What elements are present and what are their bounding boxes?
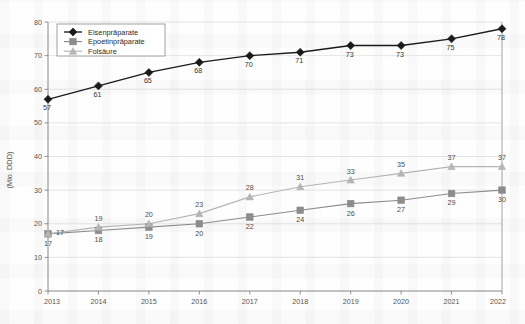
y-tick-label: 10 bbox=[34, 253, 42, 262]
diamond-marker bbox=[347, 42, 355, 50]
y-axis-ticks: 01020304050607080 bbox=[34, 18, 48, 296]
diamond-marker bbox=[448, 35, 456, 43]
data-point-label: 27 bbox=[397, 205, 405, 214]
data-point-label: 30 bbox=[498, 195, 506, 204]
data-point-label: 73 bbox=[396, 50, 404, 59]
x-tick-label: 2014 bbox=[90, 297, 106, 306]
x-tick-label: 2016 bbox=[191, 297, 207, 306]
series-markers-group bbox=[44, 25, 506, 237]
data-point-label: 23 bbox=[195, 200, 203, 209]
square-marker bbox=[70, 38, 77, 45]
data-point-label: 78 bbox=[497, 33, 505, 42]
diamond-marker bbox=[498, 25, 506, 33]
data-point-label: 26 bbox=[347, 209, 355, 218]
legend-item-label[interactable]: Folsäure bbox=[88, 47, 117, 56]
legend-item-label[interactable]: Eisenpräparate bbox=[88, 28, 138, 37]
data-point-label: 20 bbox=[195, 229, 203, 238]
series-lines-group bbox=[48, 29, 502, 234]
data-point-label: 29 bbox=[448, 198, 456, 207]
line-chart: 01020304050607080 2013201420152016201720… bbox=[0, 0, 525, 324]
x-tick-label: 2017 bbox=[242, 297, 258, 306]
x-tick-label: 2022 bbox=[490, 297, 506, 306]
legend-item-label[interactable]: Epoetinpräparate bbox=[88, 37, 145, 46]
y-tick-label: 0 bbox=[38, 287, 42, 296]
data-point-label: 19 bbox=[145, 232, 153, 241]
chart-legend[interactable]: EisenpräparateEpoetinpräparateFolsäure bbox=[57, 24, 165, 56]
square-marker bbox=[347, 200, 354, 207]
gridline-group bbox=[48, 22, 502, 257]
x-tick-label: 2021 bbox=[444, 297, 460, 306]
diamond-marker bbox=[397, 42, 405, 50]
y-tick-label: 20 bbox=[34, 219, 42, 228]
y-tick-label: 40 bbox=[34, 152, 42, 161]
square-marker bbox=[398, 197, 405, 204]
data-point-label: 35 bbox=[397, 160, 405, 169]
y-tick-label: 50 bbox=[34, 118, 42, 127]
series-line-square bbox=[48, 190, 502, 234]
chart-container: 01020304050607080 2013201420152016201720… bbox=[0, 0, 525, 324]
y-axis-title: (Mio. DDD) bbox=[5, 152, 14, 189]
data-point-label: 37 bbox=[448, 153, 456, 162]
data-point-label: 18 bbox=[94, 235, 102, 244]
data-point-label: 61 bbox=[93, 90, 101, 99]
diamond-marker bbox=[296, 48, 304, 56]
diamond-marker bbox=[246, 52, 254, 60]
data-point-label: 71 bbox=[295, 56, 303, 65]
data-point-label: 17 bbox=[56, 228, 64, 237]
data-point-label: 20 bbox=[145, 210, 153, 219]
square-marker bbox=[246, 214, 253, 221]
x-tick-label: 2020 bbox=[393, 297, 409, 306]
data-point-label: 33 bbox=[347, 167, 355, 176]
data-point-label: 57 bbox=[43, 103, 51, 112]
diamond-marker bbox=[195, 58, 203, 66]
square-marker bbox=[196, 220, 203, 227]
x-tick-label: 2015 bbox=[141, 297, 157, 306]
y-tick-label: 80 bbox=[34, 18, 42, 27]
data-point-label: 22 bbox=[246, 222, 254, 231]
data-point-label: 17 bbox=[44, 239, 52, 248]
data-point-label: 19 bbox=[94, 214, 102, 223]
x-axis-ticks: 2013201420152016201720182019202020212022 bbox=[44, 291, 506, 306]
y-tick-label: 60 bbox=[34, 85, 42, 94]
y-tick-label: 70 bbox=[34, 51, 42, 60]
data-point-label: 75 bbox=[447, 43, 455, 52]
diamond-marker bbox=[44, 95, 52, 103]
data-point-label: 24 bbox=[296, 215, 304, 224]
data-point-label: 31 bbox=[296, 173, 304, 182]
x-tick-label: 2019 bbox=[343, 297, 359, 306]
square-marker bbox=[448, 190, 455, 197]
data-point-label: 73 bbox=[346, 50, 354, 59]
data-point-label: 37 bbox=[498, 153, 506, 162]
square-marker bbox=[297, 207, 304, 214]
data-point-label: 28 bbox=[246, 183, 254, 192]
data-point-label: 65 bbox=[144, 76, 152, 85]
diamond-marker bbox=[145, 68, 153, 76]
data-point-label: 68 bbox=[194, 66, 202, 75]
x-tick-label: 2018 bbox=[292, 297, 308, 306]
diamond-marker bbox=[94, 82, 102, 90]
y-tick-label: 30 bbox=[34, 186, 42, 195]
square-marker bbox=[499, 187, 506, 194]
data-point-label: 70 bbox=[245, 60, 253, 69]
x-tick-label: 2013 bbox=[44, 297, 60, 306]
data-point-labels-group: 5761656870717373757817181920222426272930… bbox=[43, 33, 506, 248]
